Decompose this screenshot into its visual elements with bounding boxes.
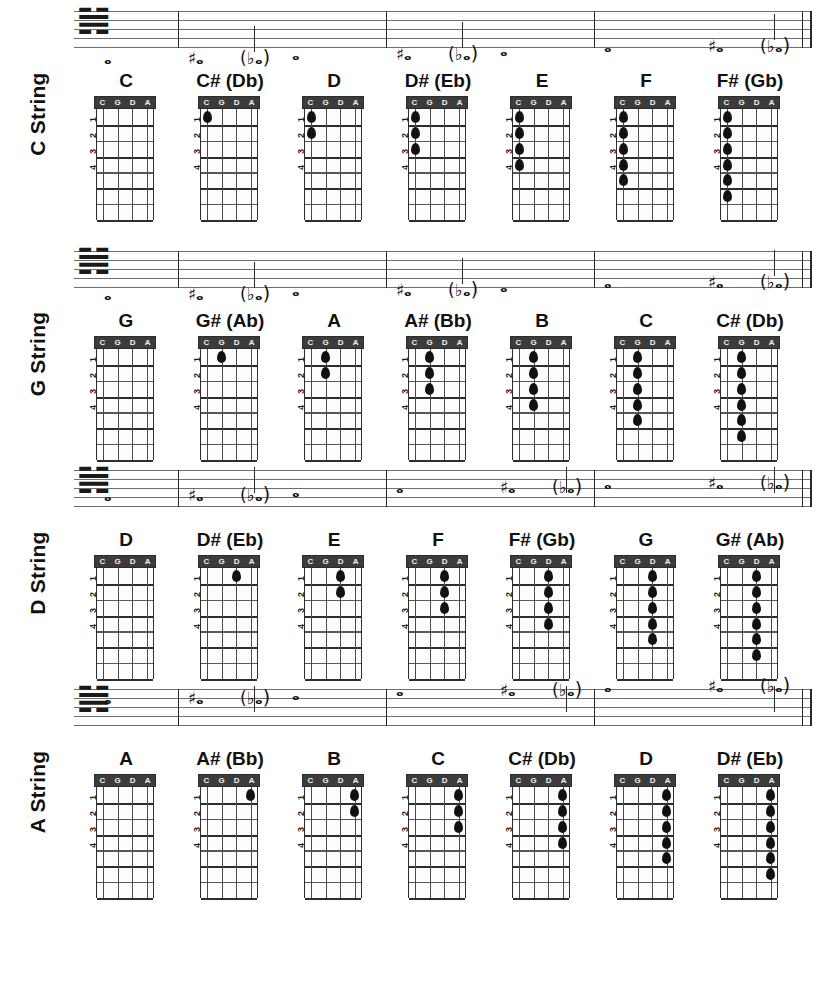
fret-wire	[721, 381, 777, 382]
open-string-label: C	[308, 558, 314, 566]
fret-number-label: 3	[88, 827, 98, 832]
fret-number-label: 2	[712, 811, 722, 816]
fretboard-diagram[interactable]: CGDA1234	[490, 555, 594, 683]
fretboard-diagram[interactable]: CGDA1234	[386, 774, 490, 902]
note-stem	[462, 22, 463, 48]
fingering-dot	[766, 837, 775, 849]
fretboard-diagram[interactable]: CGDA1234	[594, 96, 698, 224]
fretboard-diagram[interactable]: CGDA1234	[178, 96, 282, 224]
whole-note-glyph: 𝅝)	[463, 42, 478, 64]
staff-lines: 𝌢𝅝♯𝅝(♭𝅝)𝅝♯𝅝(♭𝅝)𝅝𝅝♯𝅝(♭𝅝)	[74, 248, 812, 292]
open-string-label: C	[724, 777, 730, 785]
fretboard-nut: CGDA	[302, 774, 364, 787]
fret-number-label: 1	[400, 357, 410, 362]
string-line	[132, 568, 133, 679]
fretboard-diagram[interactable]: CGDA1234	[698, 96, 802, 224]
open-string-label: G	[426, 558, 432, 566]
string-line	[534, 787, 535, 898]
fret-wire	[617, 141, 673, 142]
staff-end-barline	[810, 11, 812, 48]
fretboard-nut: CGDA	[614, 555, 676, 568]
fret-wire	[409, 188, 465, 190]
fretboard-diagram[interactable]: CGDA1234	[594, 336, 698, 464]
fingering-dot	[336, 586, 345, 598]
whole-note-glyph: 𝅝	[396, 678, 404, 700]
staff-note: ♯𝅝	[708, 36, 724, 56]
fret-wire	[97, 850, 153, 851]
fret-wire	[97, 444, 153, 445]
fret-wire	[617, 444, 673, 445]
staff-line	[74, 260, 812, 261]
fretboard-diagram[interactable]: CGDA1234	[490, 774, 594, 902]
fretboard-diagram[interactable]: CGDA1234	[178, 774, 282, 902]
staff-note: ♯𝅝	[708, 676, 724, 696]
staff-end-barline	[810, 470, 812, 507]
fret-number-label: 2	[296, 373, 306, 378]
whole-note-glyph: 𝅝	[716, 674, 724, 696]
string-line	[236, 568, 237, 679]
fret-wire	[617, 412, 673, 413]
fret-wire	[201, 204, 257, 205]
fretboard-diagram[interactable]: CGDA1234	[282, 555, 386, 683]
note-stem	[774, 686, 775, 712]
note-name-label: E	[282, 529, 386, 551]
fretboard-diagram[interactable]: CGDA1234	[282, 96, 386, 224]
fretboard-nut: CGDA	[94, 555, 156, 568]
sharp-accidental-icon: ♯	[708, 473, 716, 493]
fretboard-diagram[interactable]: CGDA1234	[698, 555, 802, 683]
open-string-label: G	[218, 339, 224, 347]
fretboard-diagram[interactable]: CGDA1234	[594, 774, 698, 902]
string-line	[340, 787, 341, 898]
whole-note-glyph: 𝅝)	[775, 674, 790, 696]
fret-wire	[97, 381, 153, 382]
fretboard-diagram[interactable]: CGDA1234	[74, 96, 178, 224]
string-line	[563, 109, 564, 220]
fretboard-diagram[interactable]: CGDA1234	[178, 336, 282, 464]
fretboard-nut: CGDA	[94, 336, 156, 349]
fret-wire	[97, 172, 153, 173]
note-name-label: D# (Eb)	[698, 748, 802, 770]
fretboard-diagram[interactable]: CGDA1234	[74, 555, 178, 683]
string-line	[311, 568, 312, 679]
fretboard-diagram[interactable]: CGDA1234	[698, 336, 802, 464]
fret-number-label: 3	[608, 608, 618, 613]
fretboard-diagram[interactable]: CGDA1234	[282, 774, 386, 902]
fretboard-neck	[720, 568, 778, 679]
fretboard-diagram[interactable]: CGDA1234	[74, 774, 178, 902]
fretboard-diagram[interactable]: CGDA1234	[386, 555, 490, 683]
staff-line	[74, 479, 812, 480]
staff-line	[74, 698, 812, 699]
barline	[178, 251, 179, 288]
fretboard-diagram[interactable]: CGDA1234	[178, 555, 282, 683]
string-line	[103, 109, 104, 220]
fret-wire	[201, 444, 257, 445]
fingering-dot	[321, 367, 330, 379]
fretboard-diagram[interactable]: CGDA1234	[490, 96, 594, 224]
fretboard-neck	[200, 349, 258, 460]
fingering-dot	[633, 383, 642, 395]
string-line	[444, 109, 445, 220]
string-row-d-string: D String𝌢𝅝♯𝅝(♭𝅝)𝅝𝅝♯𝅝(♭𝅝)𝅝♯𝅝(♭𝅝)DD# (Eb)E…	[0, 459, 828, 678]
fretboard-diagram[interactable]: CGDA1234	[74, 336, 178, 464]
whole-note-glyph: 𝅝	[508, 678, 516, 700]
fretboard-diagram[interactable]: CGDA1234	[698, 774, 802, 902]
open-string-label: G	[426, 99, 432, 107]
fret-wire	[409, 866, 465, 868]
fretboard-diagram[interactable]: CGDA1234	[386, 96, 490, 224]
fretboard-diagram[interactable]: CGDA1234	[594, 555, 698, 683]
fretboard-nut: CGDA	[718, 555, 780, 568]
fretboard-diagram[interactable]: CGDA1234	[490, 336, 594, 464]
open-string-label: D	[234, 339, 240, 347]
fret-wire	[513, 600, 569, 601]
string-line	[444, 787, 445, 898]
fret-number-label: 3	[192, 827, 202, 832]
staff-line	[74, 497, 812, 498]
open-string-label: G	[738, 99, 744, 107]
open-string-label: G	[426, 339, 432, 347]
fingering-dot	[217, 351, 226, 363]
staff-note: ♯𝅝	[708, 272, 724, 292]
fretboard-diagram[interactable]: CGDA1234	[282, 336, 386, 464]
fret-number-label: 1	[504, 795, 514, 800]
fretboard-diagram[interactable]: CGDA1234	[386, 336, 490, 464]
fret-wire	[305, 835, 361, 837]
